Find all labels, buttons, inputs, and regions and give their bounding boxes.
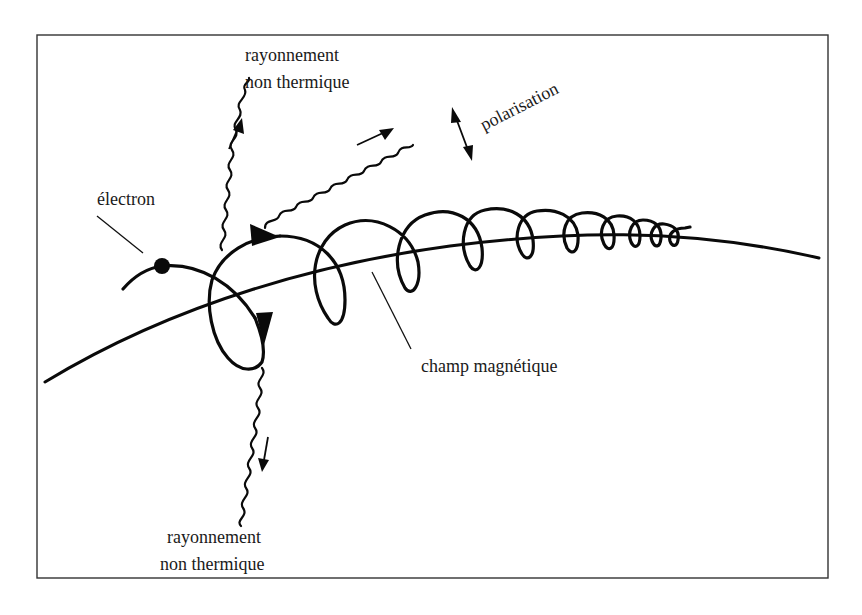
emission-arrow-down (258, 437, 269, 472)
radiation-bottom-label-line2: non thermique (160, 554, 264, 574)
figure-frame (37, 35, 828, 578)
radiation-bottom-label-line1: rayonnement (167, 527, 261, 547)
radiation-top-label-line2: non thermique (245, 72, 349, 92)
polarisation-label: polarisation (477, 78, 562, 134)
electron-leader-line (97, 216, 143, 253)
wave-bottom (239, 368, 263, 526)
polarisation-arrow (451, 107, 473, 161)
electron-dot (154, 258, 170, 274)
radiation-top-label-line1: rayonnement (245, 45, 339, 65)
magnetic-field-label: champ magnétique (421, 356, 557, 376)
wave-top (220, 78, 249, 250)
field-leader-line (372, 272, 411, 349)
emission-arrow-up-right (357, 128, 394, 145)
synchrotron-diagram: électron rayonnement non thermique rayon… (0, 0, 862, 615)
wave-diagonal (265, 145, 413, 228)
electron-label: électron (97, 189, 155, 209)
